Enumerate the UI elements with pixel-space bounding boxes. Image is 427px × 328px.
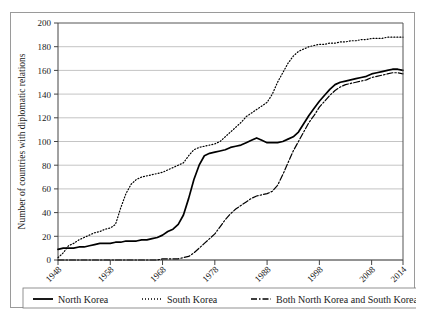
chart-area: 0204060801001201401601802001948195819681…: [11, 13, 416, 309]
legend-label-3: Both North Korea and South Korea: [276, 294, 416, 305]
legend-label-2: South Korea: [167, 294, 218, 305]
y-axis-tick-label: 180: [38, 42, 52, 52]
y-axis-tick-label: 0: [47, 255, 52, 265]
y-axis-tick-label: 20: [42, 232, 52, 242]
x-axis-tick-label: 1948: [44, 264, 64, 284]
x-axis-tick-label: 2014: [389, 264, 409, 284]
x-axis-tick-label: 1988: [253, 264, 273, 284]
x-axis-tick-label: 1998: [305, 264, 325, 284]
x-axis-tick-label: 1958: [96, 264, 116, 284]
y-axis-tick-label: 80: [42, 161, 52, 171]
x-axis-tick-label: 2008: [357, 264, 377, 284]
y-axis-title: Number of countries with diplomatic rela…: [17, 53, 27, 229]
x-axis-tick-label: 1968: [148, 264, 168, 284]
y-axis-tick-label: 40: [42, 208, 52, 218]
y-axis-tick-label: 160: [38, 66, 52, 76]
figure-frame: 0204060801001201401601802001948195819681…: [10, 12, 415, 308]
legend: North KoreaSouth KoreaBoth North Korea a…: [23, 288, 416, 308]
line-chart: 0204060801001201401601802001948195819681…: [11, 13, 416, 309]
y-axis-tick-label: 120: [38, 113, 52, 123]
y-axis-tick-label: 100: [38, 137, 52, 147]
legend-label-1: North Korea: [58, 294, 109, 305]
x-axis-tick-label: 1978: [200, 264, 220, 284]
y-axis-tick-label: 60: [42, 184, 52, 194]
y-axis-tick-label: 200: [38, 18, 52, 28]
y-axis-tick-label: 140: [38, 90, 52, 100]
